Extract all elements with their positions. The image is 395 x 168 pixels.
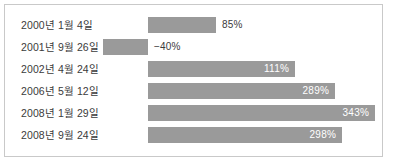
row-category-label: 2008년 1월 29일 [21, 102, 99, 124]
bar-chart-row: 2006년 5월 12일289% [5, 80, 382, 102]
bar-container: 298% [148, 127, 342, 143]
bar-container: 111% [148, 61, 295, 77]
bar-value-label-outside: −40% [154, 39, 181, 55]
bar-container: 85% [148, 17, 216, 33]
bar-value-label-inside: 111% [264, 61, 289, 77]
bar-chart-panel: 2000년 1월 4일85%2001년 9월 26일−40%2002년 4월 2… [4, 4, 383, 157]
bar-container: 289% [148, 83, 335, 99]
bar-container: −40% [103, 39, 148, 55]
bar [103, 39, 148, 55]
bar-value-label-inside: 298% [310, 127, 336, 143]
bar-chart-row: 2008년 9월 24일298% [5, 124, 382, 146]
row-category-label: 2008년 9월 24일 [21, 124, 99, 146]
row-category-label: 2006년 5월 12일 [21, 80, 99, 102]
row-category-label: 2001년 9월 26일 [21, 36, 99, 58]
bar-container: 343% [148, 105, 375, 121]
bar-chart-row: 2002년 4월 24일111% [5, 58, 382, 80]
bar-chart-row: 2008년 1월 29일343% [5, 102, 382, 124]
bar-chart-row: 2001년 9월 26일−40% [5, 36, 382, 58]
row-category-label: 2000년 1월 4일 [21, 14, 93, 36]
bar [148, 105, 375, 121]
bar [148, 17, 216, 33]
bar-value-label-outside: 85% [222, 17, 243, 33]
bar-value-label-inside: 289% [303, 83, 329, 99]
bar-value-label-inside: 343% [343, 105, 369, 121]
bar-chart-row: 2000년 1월 4일85% [5, 14, 382, 36]
row-category-label: 2002년 4월 24일 [21, 58, 99, 80]
